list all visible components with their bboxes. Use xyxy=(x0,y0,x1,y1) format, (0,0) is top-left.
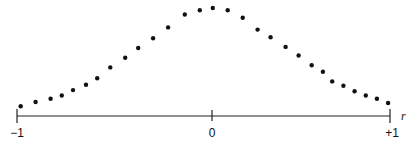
data-point xyxy=(241,16,245,20)
data-point xyxy=(321,70,325,74)
data-point xyxy=(268,35,272,39)
data-point xyxy=(108,65,112,69)
data-point xyxy=(352,89,356,93)
data-point xyxy=(375,97,379,101)
data-point xyxy=(386,101,390,105)
data-point xyxy=(310,63,314,67)
x-tick-label-minus-one: −1 xyxy=(10,126,24,140)
data-point xyxy=(166,25,170,29)
data-point xyxy=(183,12,187,16)
x-axis-variable-label: r xyxy=(401,109,406,123)
data-point xyxy=(341,84,345,88)
data-points xyxy=(19,6,391,109)
data-point xyxy=(211,6,215,10)
data-point xyxy=(48,97,52,101)
data-point xyxy=(71,88,75,92)
chart: −1 0 +1 r xyxy=(0,0,413,145)
data-point xyxy=(33,100,37,104)
data-point xyxy=(364,93,368,97)
data-point xyxy=(84,83,88,87)
x-tick-label-plus-one: +1 xyxy=(385,126,399,140)
data-point xyxy=(123,56,127,60)
data-point xyxy=(198,8,202,12)
data-point xyxy=(226,8,230,12)
x-tick-label-zero: 0 xyxy=(209,126,216,140)
data-point xyxy=(60,93,64,97)
data-point xyxy=(95,76,99,80)
data-point xyxy=(330,79,334,83)
data-point xyxy=(19,104,23,108)
data-point xyxy=(136,46,140,50)
data-point xyxy=(151,36,155,40)
data-point xyxy=(296,53,300,57)
data-point xyxy=(255,27,259,31)
data-point xyxy=(283,45,287,49)
